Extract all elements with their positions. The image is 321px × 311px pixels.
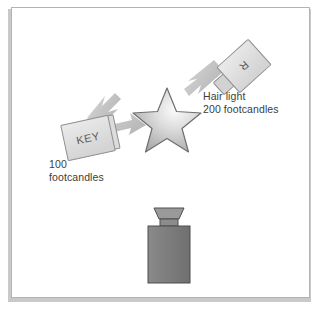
diagram-frame: KEY R xyxy=(11,7,310,298)
hair-light-caption-line2: 200 footcandles xyxy=(203,103,279,115)
hair-light-caption: Hair light200 footcandles xyxy=(203,90,279,115)
hair-light-caption-line1: Hair light xyxy=(203,90,245,102)
lighting-diagram-figure: KEY R xyxy=(0,0,321,311)
camera-lens-neck xyxy=(160,219,178,226)
key-light-caption: 100footcandles xyxy=(49,158,104,183)
key-light-caption-line1: 100 xyxy=(49,158,67,170)
key-light-box: KEY xyxy=(61,115,115,160)
camera-icon xyxy=(148,208,190,283)
camera-body xyxy=(148,226,190,283)
camera-lens-hood xyxy=(154,208,184,219)
key-light-caption-line2: footcandles xyxy=(49,171,104,183)
diagram-artwork: KEY R xyxy=(12,8,311,299)
subject-star xyxy=(133,88,201,152)
